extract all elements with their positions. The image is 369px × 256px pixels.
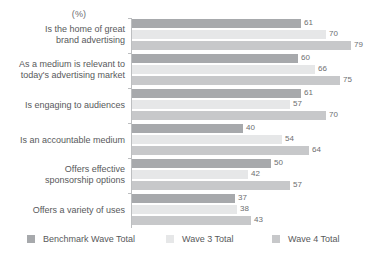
axis-tick	[128, 158, 131, 159]
category-label-line: As a medium is relevant to	[0, 59, 125, 70]
bar[interactable]	[132, 41, 351, 50]
bar-chart: (%) Is the home of greatbrand advertisin…	[0, 0, 369, 256]
bar-set: 405464	[132, 123, 369, 158]
plot-area: Is the home of greatbrand advertising617…	[0, 18, 369, 228]
category-label-line: Is engaging to audiences	[0, 100, 125, 111]
legend-label: Wave 4 Total	[288, 234, 340, 244]
bar-group: Is engaging to audiences615770	[0, 88, 369, 123]
category-label: Offers a variety of uses	[0, 205, 125, 216]
bar[interactable]	[132, 76, 340, 85]
bar[interactable]	[132, 159, 271, 168]
bar[interactable]	[132, 194, 235, 203]
bar[interactable]	[132, 54, 298, 63]
bar[interactable]	[132, 205, 237, 214]
bar-value-label: 50	[274, 158, 283, 168]
bar-value-label: 60	[301, 53, 310, 63]
bar-group: Is the home of greatbrand advertising617…	[0, 18, 369, 53]
bar[interactable]	[132, 30, 326, 39]
legend-item-wave-3-total[interactable]: Wave 3 Total	[166, 232, 234, 246]
bar-value-label: 61	[304, 88, 313, 98]
legend-item-benchmark-wave-total[interactable]: Benchmark Wave Total	[27, 232, 135, 246]
bar[interactable]	[132, 135, 282, 144]
bar[interactable]	[132, 100, 290, 109]
bar-value-label: 38	[240, 204, 249, 214]
bar[interactable]	[132, 216, 251, 225]
category-label-line: Offers effective	[0, 164, 125, 175]
category-label-line: Is the home of great	[0, 24, 125, 35]
bar-group: Is an accountable medium405464	[0, 123, 369, 158]
bar[interactable]	[132, 146, 309, 155]
bar-set: 373843	[132, 193, 369, 228]
category-label-line: Offers a variety of uses	[0, 205, 125, 216]
bar-value-label: 61	[304, 18, 313, 28]
axis-tick	[128, 88, 131, 89]
bar-group: As a medium is relevant totoday's advert…	[0, 53, 369, 88]
bar-group: Offers a variety of uses373843	[0, 193, 369, 228]
category-label: Is the home of greatbrand advertising	[0, 24, 125, 46]
axis-tick	[128, 123, 131, 124]
category-label-line: Is an accountable medium	[0, 135, 125, 146]
chart-legend: Benchmark Wave Total Wave 3 Total Wave 4…	[0, 232, 369, 248]
category-label-line: today's advertising market	[0, 70, 125, 81]
bar[interactable]	[132, 124, 243, 133]
bar-value-label: 79	[354, 40, 363, 50]
bar-value-label: 57	[293, 99, 302, 109]
bar[interactable]	[132, 111, 326, 120]
legend-label: Wave 3 Total	[182, 234, 234, 244]
bar[interactable]	[132, 89, 301, 98]
axis-tick	[128, 53, 131, 54]
bar-group: Offers effectivesponsorship options50425…	[0, 158, 369, 193]
category-label-line: sponsorship options	[0, 175, 125, 186]
bar-set: 617079	[132, 18, 369, 53]
bar-set: 504257	[132, 158, 369, 193]
bar[interactable]	[132, 65, 315, 74]
legend-swatch-icon	[272, 235, 280, 243]
legend-swatch-icon	[27, 235, 35, 243]
category-label-line: brand advertising	[0, 35, 125, 46]
category-label: Is an accountable medium	[0, 135, 125, 146]
bar-value-label: 42	[251, 169, 260, 179]
legend-label: Benchmark Wave Total	[43, 234, 135, 244]
bar-value-label: 70	[329, 110, 338, 120]
bar-value-label: 37	[238, 193, 247, 203]
category-label: As a medium is relevant totoday's advert…	[0, 59, 125, 81]
bar-set: 606675	[132, 53, 369, 88]
category-label: Offers effectivesponsorship options	[0, 164, 125, 186]
bar-set: 615770	[132, 88, 369, 123]
bar-value-label: 54	[285, 134, 294, 144]
bar-value-label: 40	[246, 123, 255, 133]
bar-value-label: 64	[312, 145, 321, 155]
bar[interactable]	[132, 181, 290, 190]
bar-value-label: 70	[329, 29, 338, 39]
bar[interactable]	[132, 19, 301, 28]
bar-value-label: 57	[293, 180, 302, 190]
category-label: Is engaging to audiences	[0, 100, 125, 111]
bar[interactable]	[132, 170, 248, 179]
legend-item-wave-4-total[interactable]: Wave 4 Total	[272, 232, 340, 246]
bar-value-label: 43	[254, 215, 263, 225]
axis-tick	[128, 18, 131, 19]
bar-value-label: 75	[343, 75, 352, 85]
legend-swatch-icon	[166, 235, 174, 243]
bar-value-label: 66	[318, 64, 327, 74]
axis-tick	[128, 193, 131, 194]
